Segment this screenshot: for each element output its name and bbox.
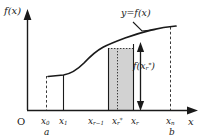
tick-sub-x0: 0	[46, 120, 50, 126]
curve-equation-label: y=f(x)	[121, 8, 151, 18]
tick-label-xr-minus-1: xr−1	[88, 117, 104, 127]
representative-rectangle	[108, 48, 134, 110]
tick-label-x0: x0	[41, 117, 50, 127]
curve-label-arg: (x)	[138, 7, 151, 18]
tick-label-xr-star: xr*	[112, 117, 123, 127]
height-arrow-down-head	[137, 101, 144, 111]
x-axis-label: x	[188, 117, 194, 127]
tick-star-xrstar: *	[120, 117, 123, 123]
tick-sub-xn: n	[171, 120, 175, 126]
y-axis-label: f(x)	[4, 6, 21, 16]
interval-start-label: a	[44, 128, 49, 137]
y-axis-arrowhead	[24, 9, 32, 20]
tick-label-x1: x1	[59, 117, 68, 127]
height-label-close: )	[151, 60, 155, 71]
tick-label-xr: xr	[131, 117, 139, 127]
rectangle-height-label: f(xr*)	[133, 61, 155, 72]
interval-end-label: b	[169, 128, 175, 137]
tick-label-xn: xn	[166, 117, 175, 127]
height-arrow-up-head	[137, 42, 144, 52]
tick-sub-xr: r	[136, 120, 139, 126]
tick-sub-xrm1: r−1	[93, 120, 104, 126]
curve-label-leader-line	[133, 22, 156, 31]
height-label-open: (x	[137, 60, 146, 71]
tick-sub-x1: 1	[64, 120, 68, 126]
riemann-sum-figure: f(x) y=f(x) f(xr*) O x0 a x1 xr−1 xr* xr…	[0, 0, 205, 140]
x-axis-arrowhead	[187, 107, 198, 115]
origin-label: O	[17, 117, 25, 127]
